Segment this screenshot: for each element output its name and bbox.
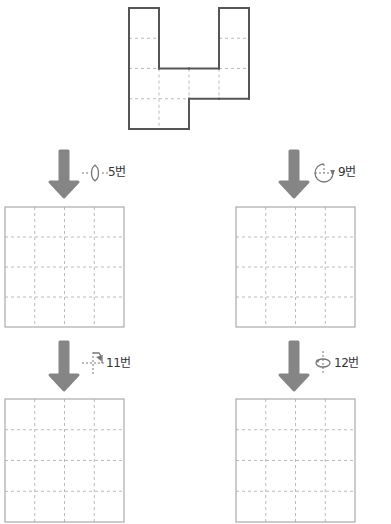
rotate-quarter-icon (312, 160, 338, 186)
step-label: 9번 (338, 165, 356, 179)
step-label: 5번 (108, 165, 126, 179)
step-label: 11번 (106, 356, 131, 370)
answer-grid[interactable] (4, 398, 125, 523)
down-arrow-icon (46, 339, 82, 393)
answer-grid[interactable] (235, 398, 356, 523)
answer-grid[interactable] (4, 206, 125, 328)
answer-grid[interactable] (235, 206, 356, 328)
flip-horizontal-axis-icon (314, 350, 334, 376)
flip-diagonal-icon (82, 350, 106, 376)
down-arrow-icon (276, 339, 312, 393)
step-label: 12번 (334, 356, 359, 370)
down-arrow-icon (46, 148, 82, 200)
source-shape (126, 5, 252, 132)
down-arrow-icon (276, 148, 312, 200)
flip-vertical-axis-icon (82, 162, 108, 184)
